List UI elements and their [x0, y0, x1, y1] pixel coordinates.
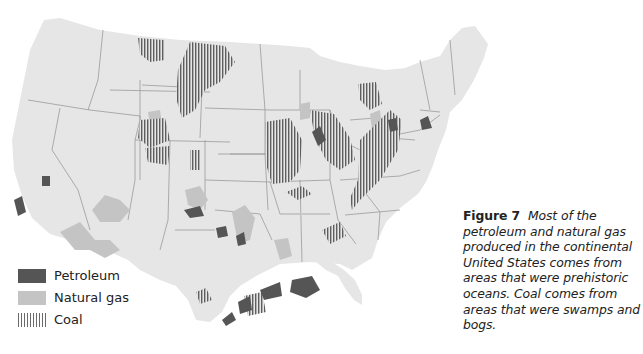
caption-text: Most of the petroleum and natural gas pr… — [463, 208, 640, 332]
legend-label: Coal — [54, 312, 83, 327]
coal-swatch-icon — [18, 313, 46, 327]
legend-item-natural-gas: Natural gas — [18, 287, 129, 308]
legend-label: Petroleum — [54, 268, 120, 283]
natural-gas-swatch-icon — [18, 291, 46, 305]
petroleum-swatch-icon — [18, 269, 46, 283]
legend-label: Natural gas — [54, 290, 129, 305]
legend-item-coal: Coal — [18, 309, 129, 330]
figure-caption: Figure 7 Most of the petroleum and natur… — [463, 208, 643, 333]
figure-label: Figure 7 — [463, 208, 520, 223]
legend: Petroleum Natural gas Coal — [18, 265, 129, 331]
legend-item-petroleum: Petroleum — [18, 265, 129, 286]
florida — [316, 262, 362, 305]
